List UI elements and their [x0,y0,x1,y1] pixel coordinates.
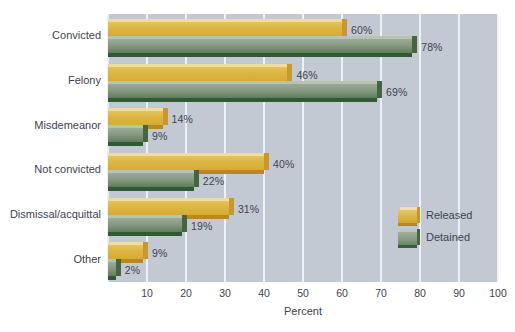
bar-end-cap [412,36,417,53]
bar-detained-felony [108,84,377,98]
bar-front-face [108,245,143,259]
bar-shadow-face [108,276,116,280]
swatch-side-face [417,229,420,245]
legend-label-detained: Detained [426,231,470,243]
bar-detained-not-convicted [108,173,194,187]
bar-front-face [108,173,194,187]
bar-end-cap [287,64,292,81]
bar-end-cap [143,242,148,259]
bar-released-misdemeanor [108,111,163,125]
category-label-felony: Felony [0,74,101,86]
swatch-bottom-face [398,223,417,226]
data-label-released-not-convicted: 40% [273,158,294,170]
legend-item-detained: Detained [398,230,498,252]
legend-label-released: Released [426,209,472,221]
swatch-side-face [417,207,420,223]
bar-shadow-face [108,232,182,236]
bar-released-not-convicted [108,156,264,170]
bar-shadow-face [108,187,194,191]
bar-front-face [108,39,412,53]
swatch-front-face [398,210,417,223]
x-tick-label-10: 10 [141,287,153,299]
x-tick-label-30: 30 [219,287,231,299]
bar-detained-dismissal-acquittal [108,218,182,232]
data-label-detained-misdemeanor: 9% [152,130,167,142]
bar-released-other [108,245,143,259]
bar-front-face [108,201,229,215]
bar-end-cap [377,81,382,98]
x-axis-title: Percent [108,305,498,317]
bar-end-cap [163,108,168,125]
swatch-front-face [398,232,417,245]
legend-item-released: Released [398,208,498,230]
bar-front-face [108,67,287,81]
data-label-released-other: 9% [152,247,167,259]
x-tick-label-20: 20 [180,287,192,299]
data-label-detained-felony: 69% [386,86,407,98]
bar-front-face [108,218,182,232]
bar-shadow-face [108,53,412,57]
x-tick-label-40: 40 [258,287,270,299]
swatch-bottom-face [398,245,417,248]
category-label-not-convicted: Not convicted [0,163,101,175]
data-label-detained-dismissal-acquittal: 19% [191,220,212,232]
bar-detained-other [108,262,116,276]
category-label-dismissal-acquittal: Dismissal/acquittal [0,208,101,220]
bar-detained-convicted [108,39,412,53]
bar-front-face [108,262,116,276]
bar-detained-misdemeanor [108,128,143,142]
bar-chart: 60%78%46%69%14%9%40%22%31%19%9%2% Convic… [0,0,515,332]
data-label-detained-convicted: 78% [421,41,442,53]
bar-end-cap [143,125,148,142]
bar-end-cap [342,19,347,36]
data-label-released-dismissal-acquittal: 31% [238,203,259,215]
chart-legend: ReleasedDetained [398,208,498,252]
bar-end-cap [116,259,121,276]
x-tick-label-90: 90 [453,287,465,299]
data-label-released-felony: 46% [296,69,317,81]
bar-shadow-face [108,142,143,146]
x-tick-label-50: 50 [297,287,309,299]
bar-end-cap [194,170,199,187]
data-label-detained-not-convicted: 22% [203,175,224,187]
data-label-released-convicted: 60% [351,24,372,36]
category-axis: ConvictedFelonyMisdemeanorNot convictedD… [0,14,101,282]
bar-end-cap [229,198,234,215]
category-label-other: Other [0,253,101,265]
bar-end-cap [182,215,187,232]
data-label-detained-other: 2% [125,264,140,276]
legend-swatch-detained [398,232,417,245]
x-tick-label-60: 60 [336,287,348,299]
x-tick-label-80: 80 [414,287,426,299]
bar-released-convicted [108,22,342,36]
bar-end-cap [264,153,269,170]
bar-front-face [108,84,377,98]
bar-shadow-face [108,98,377,102]
bar-released-felony [108,67,287,81]
legend-swatch-released [398,210,417,223]
bar-front-face [108,156,264,170]
category-label-misdemeanor: Misdemeanor [0,119,101,131]
x-tick-label-70: 70 [375,287,387,299]
category-label-convicted: Convicted [0,29,101,41]
x-tick-label-100: 100 [489,287,507,299]
x-axis-ticks: 102030405060708090100 [108,287,498,303]
bar-front-face [108,22,342,36]
bar-front-face [108,128,143,142]
bar-released-dismissal-acquittal [108,201,229,215]
bar-front-face [108,111,163,125]
data-label-released-misdemeanor: 14% [172,113,193,125]
